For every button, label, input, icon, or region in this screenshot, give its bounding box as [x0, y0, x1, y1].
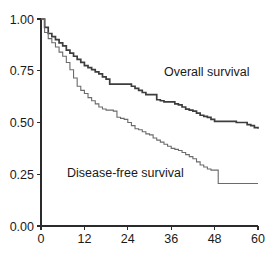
x-tick-label: 0 — [38, 232, 45, 246]
y-tick-label: 0.25 — [10, 168, 34, 182]
overall-survival-label: Overall survival — [164, 65, 249, 79]
y-tick-label: 0.75 — [10, 64, 34, 78]
x-tick-label: 12 — [77, 232, 91, 246]
km-curve-disease-free-survival — [41, 19, 258, 184]
annotation-labels: Overall survival Disease-free survival — [67, 65, 249, 180]
chart-page: 0.000.250.500.751.0001224364860 Overall … — [0, 0, 270, 259]
y-tick-label: 0.00 — [10, 220, 34, 234]
x-tick-label: 24 — [121, 232, 135, 246]
disease-free-survival-label: Disease-free survival — [67, 166, 184, 180]
curves — [41, 19, 258, 184]
x-tick-label: 36 — [164, 232, 178, 246]
x-tick-label: 48 — [208, 232, 222, 246]
y-tick-label: 0.50 — [10, 116, 34, 130]
survival-curve-chart: 0.000.250.500.751.0001224364860 Overall … — [0, 0, 270, 259]
y-tick-label: 1.00 — [10, 13, 34, 27]
x-tick-label: 60 — [251, 232, 265, 246]
